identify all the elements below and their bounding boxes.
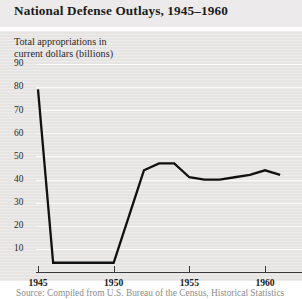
defense-outlays-line <box>38 89 280 262</box>
figure-caption: Source: Compiled from U.S. Bureau of the… <box>16 288 292 299</box>
